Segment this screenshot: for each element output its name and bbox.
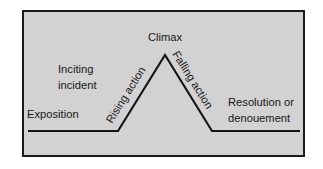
label-resolution-line2: denouement	[228, 112, 291, 124]
plot-structure-svg: Exposition Inciting incident Rising acti…	[0, 0, 323, 169]
label-inciting-incident-line1: Inciting	[58, 63, 93, 75]
label-resolution-line1: Resolution or	[228, 96, 294, 108]
label-inciting-incident-line2: incident	[58, 79, 97, 91]
label-climax: Climax	[148, 31, 183, 43]
label-exposition: Exposition	[27, 108, 79, 120]
diagram-canvas: Exposition Inciting incident Rising acti…	[0, 0, 323, 169]
